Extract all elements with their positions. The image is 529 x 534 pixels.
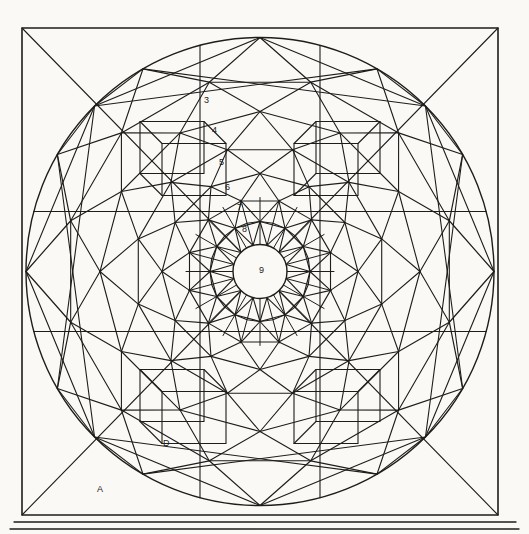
diagonal-node-ray [425, 106, 494, 271]
rosette-strut-4-6 [241, 342, 279, 369]
hub-spoke-10 [274, 295, 298, 336]
hub-spoke-4 [283, 235, 324, 259]
rosette-strut-2-8 [121, 304, 170, 360]
construction-label-5: 5 [219, 158, 224, 167]
hub-spoke-16 [196, 285, 237, 309]
rosette-strut-2-10 [121, 182, 170, 238]
rosette-strut-3-1 [309, 182, 349, 222]
rosette-strut-2-1 [293, 133, 349, 182]
construction-label-6: 6 [225, 183, 230, 192]
construction-linework [10, 28, 519, 529]
quadrant-box-offset-3 [294, 392, 358, 444]
rosette-strut-2-4 [349, 304, 398, 360]
diagonal-node-ray [95, 437, 260, 506]
rosette-strut-4-9 [162, 253, 189, 291]
diagonal-node-ray [95, 38, 260, 107]
construction-label-7: 7 [237, 203, 242, 212]
construction-label-4: 4 [212, 126, 217, 135]
quadrant-box-edge-3-c [294, 422, 316, 444]
rosette-strut-4-0 [241, 174, 279, 201]
diagonal-node-ray [425, 272, 494, 437]
region-label-a: A [97, 485, 103, 494]
construction-label-3: 3 [204, 96, 209, 105]
quadrant-box-offset-2 [162, 392, 226, 444]
diagonal-node-ray [26, 272, 95, 437]
diagonal-node-ray [260, 38, 425, 107]
diagonal-node-ray [260, 437, 425, 506]
rosette-strut-3-7 [171, 321, 211, 361]
drawing-page: 3456789DA [0, 0, 529, 534]
star-spike-0 [209, 38, 310, 83]
rosette-strut-3-10 [171, 182, 211, 222]
hub-spoke-14 [223, 295, 247, 336]
rosette-strut-2-7 [171, 361, 227, 410]
rosette-strut-3-4 [309, 321, 349, 361]
star-spike-9 [26, 221, 71, 322]
rosette-strut-2-2 [349, 182, 398, 238]
quadrant-box-edge-2-c [140, 422, 162, 444]
region-label-d: D [163, 439, 170, 448]
construction-label-8: 8 [242, 225, 247, 234]
center-label-9: 9 [259, 266, 264, 275]
quadrant-box-edge-3-b [358, 370, 380, 392]
quadrant-box-edge-2-a [140, 370, 162, 392]
diagonal-node-ray [26, 106, 95, 271]
quadrant-box-edge-2-b [204, 370, 226, 392]
quadrant-box-edge-1-a [294, 122, 316, 144]
star-spike-6 [209, 461, 310, 506]
hub-spoke-20 [196, 235, 237, 259]
hub-spoke-8 [283, 285, 324, 309]
star-spike-3 [449, 221, 494, 322]
quadrant-box-edge-3-a [294, 370, 316, 392]
geometric-construction-figure [0, 0, 529, 534]
rosette-strut-2-5 [293, 361, 349, 410]
hub-spoke-2 [274, 207, 298, 248]
rosette-strut-4-3 [331, 253, 358, 291]
